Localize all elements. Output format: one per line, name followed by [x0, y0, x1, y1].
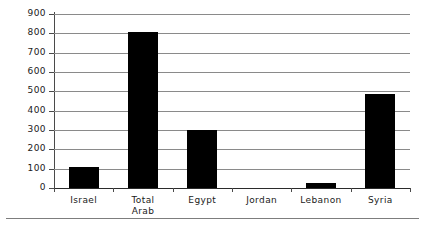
bar-slot — [291, 14, 350, 188]
x-category-label: Egypt — [173, 195, 232, 206]
y-tick-label-400: 400 — [0, 106, 46, 115]
y-tick-label-700: 700 — [0, 48, 46, 57]
y-tick-label-100: 100 — [0, 164, 46, 173]
y-tick-label-300: 300 — [0, 125, 46, 134]
bar-slot — [173, 14, 232, 188]
bar-lebanon — [306, 183, 336, 188]
x-tick — [291, 188, 292, 192]
y-tick-label-200: 200 — [0, 144, 46, 153]
bar-chart: 9008007006005004003002001000 IsraelTotal… — [0, 0, 425, 225]
x-category-label: Total Arab — [113, 195, 172, 217]
x-tick — [173, 188, 174, 192]
bars-layer — [54, 14, 410, 188]
y-tick-label-600: 600 — [0, 67, 46, 76]
x-category-label: Jordan — [232, 195, 291, 206]
plot-area — [54, 14, 410, 188]
x-category-label: Israel — [54, 195, 113, 206]
bar-total-arab — [128, 32, 158, 188]
y-tick-label-800: 800 — [0, 28, 46, 37]
y-tick-label-0: 0 — [0, 183, 46, 192]
bar-slot — [54, 14, 113, 188]
x-tick — [410, 188, 411, 192]
footer-rule — [6, 218, 419, 219]
bar-slot — [232, 14, 291, 188]
bar-israel — [69, 167, 99, 188]
bar-syria — [365, 94, 395, 188]
x-category-label: Lebanon — [291, 195, 350, 206]
bar-slot — [351, 14, 410, 188]
x-tick — [351, 188, 352, 192]
x-tick — [232, 188, 233, 192]
y-tick-label-900: 900 — [0, 9, 46, 18]
x-tick — [54, 188, 55, 192]
x-category-label: Syria — [351, 195, 410, 206]
x-tick — [113, 188, 114, 192]
bar-egypt — [187, 130, 217, 188]
y-tick-label-500: 500 — [0, 86, 46, 95]
bar-slot — [113, 14, 172, 188]
